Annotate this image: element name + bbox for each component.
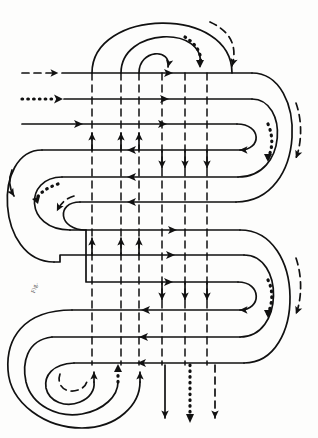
row4-line <box>42 146 240 154</box>
row6-line <box>80 198 236 206</box>
row5-line <box>62 150 238 181</box>
right-lower-turn-inner <box>238 282 256 310</box>
spiral-core <box>59 374 87 391</box>
input-solid <box>22 120 237 128</box>
dotted-arrowhead-left <box>32 196 40 204</box>
right-turn-inner <box>237 124 256 150</box>
right-turn-middle <box>238 99 277 177</box>
dotted-arrowhead-output <box>186 414 194 423</box>
flow-diagram-svg <box>0 0 318 438</box>
row11-line <box>52 333 240 341</box>
input-dotted <box>22 95 252 104</box>
row12-line <box>74 359 244 367</box>
left-turn-outer <box>7 150 54 262</box>
row8-line <box>54 251 244 262</box>
right-turn-outer <box>236 73 301 202</box>
spiral-feed-arrows <box>94 364 140 382</box>
dotted-arrowhead-input <box>54 95 63 104</box>
row7-line <box>70 226 240 255</box>
top-arc-inner <box>139 54 168 73</box>
top-arc-outer <box>92 22 234 73</box>
output-dotted <box>186 365 194 423</box>
vertical-grid-lines <box>92 73 207 365</box>
left-turn-inner <box>57 196 86 230</box>
spiral-middle <box>25 337 118 415</box>
left-turn-middle <box>32 177 70 230</box>
row10-line <box>72 282 240 314</box>
diagram-canvas: Fig. <box>0 0 318 438</box>
dotted-arrowhead-top <box>196 60 204 68</box>
